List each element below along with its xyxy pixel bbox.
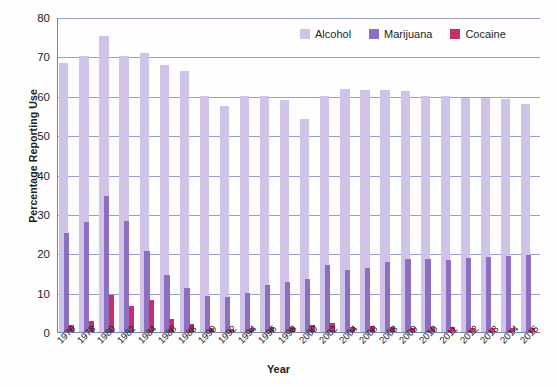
y-tick-20: 20 <box>16 248 50 260</box>
bar-marijuana-2004 <box>345 270 350 332</box>
x-tick-1980: 1980 <box>97 336 117 382</box>
y-axis-title: Percentage Reporting Use <box>27 89 39 223</box>
x-tick-1998: 1998 <box>278 336 298 382</box>
bar-marijuana-2012 <box>466 258 471 332</box>
legend-label: Cocaine <box>465 28 505 40</box>
chart-legend: AlcoholMarijuanaCocaine <box>300 28 515 40</box>
bar-group-2012 <box>460 18 480 332</box>
bar-marijuana-2015 <box>526 255 531 332</box>
bar-group-1978 <box>78 18 98 332</box>
bar-group-1996 <box>259 18 279 332</box>
bar-group-1994 <box>239 18 259 332</box>
x-tick-2011: 2011 <box>439 336 459 382</box>
bar-group-2013 <box>480 18 500 332</box>
bar-group-2004 <box>339 18 359 332</box>
bar-group-1984 <box>138 18 158 332</box>
bar-marijuana-2009 <box>405 259 410 332</box>
bar-marijuana-2002 <box>325 265 330 332</box>
bar-marijuana-2014 <box>506 256 511 332</box>
x-tick-1976: 1976 <box>57 336 77 382</box>
x-tick-2013: 2013 <box>480 336 500 382</box>
bar-group-2008 <box>379 18 399 332</box>
y-tick-10: 10 <box>16 288 50 300</box>
bar-group-1986 <box>158 18 178 332</box>
bar-group-1990 <box>199 18 219 332</box>
bar-marijuana-2006 <box>365 268 370 332</box>
bar-marijuana-2013 <box>486 257 491 332</box>
x-tick-2014: 2014 <box>500 336 520 382</box>
x-tick-1992: 1992 <box>218 336 238 382</box>
bar-group-1982 <box>118 18 138 332</box>
legend-label: Alcohol <box>315 28 351 40</box>
bar-marijuana-1976 <box>64 233 69 332</box>
x-tick-1984: 1984 <box>138 336 158 382</box>
legend-swatch-cocaine <box>450 29 460 39</box>
bar-marijuana-2011 <box>446 260 451 332</box>
bar-columns <box>58 18 540 332</box>
x-tick-2012: 2012 <box>460 336 480 382</box>
legend-item-cocaine: Cocaine <box>450 28 505 40</box>
y-tick-70: 70 <box>16 51 50 63</box>
x-tick-1978: 1978 <box>77 336 97 382</box>
bar-group-1980 <box>98 18 118 332</box>
plot-area <box>57 18 540 333</box>
bar-group-2010 <box>419 18 439 332</box>
bar-group-2000 <box>299 18 319 332</box>
x-tick-2008: 2008 <box>379 336 399 382</box>
x-tick-2002: 2002 <box>319 336 339 382</box>
legend-label: Marijuana <box>384 28 432 40</box>
bar-group-2002 <box>319 18 339 332</box>
bar-group-1992 <box>219 18 239 332</box>
x-tick-1994: 1994 <box>238 336 258 382</box>
x-axis-title: Year <box>0 363 557 375</box>
x-tick-1988: 1988 <box>178 336 198 382</box>
x-tick-2004: 2004 <box>339 336 359 382</box>
bar-group-1988 <box>178 18 198 332</box>
x-tick-1982: 1982 <box>117 336 137 382</box>
legend-swatch-marijuana <box>369 29 379 39</box>
legend-item-alcohol: Alcohol <box>300 28 351 40</box>
bar-marijuana-2008 <box>385 262 390 332</box>
x-tick-1986: 1986 <box>158 336 178 382</box>
bar-marijuana-2010 <box>425 259 430 332</box>
bar-group-2011 <box>439 18 459 332</box>
bar-chart: 01020304050607080 Percentage Reporting U… <box>0 0 557 387</box>
x-tick-1996: 1996 <box>258 336 278 382</box>
x-tick-2010: 2010 <box>419 336 439 382</box>
x-axis-tick-labels: 1976197819801982198419861988199019921994… <box>57 336 540 382</box>
x-tick-2015: 2015 <box>520 336 540 382</box>
bar-group-2014 <box>500 18 520 332</box>
x-tick-2000: 2000 <box>299 336 319 382</box>
bar-marijuana-1978 <box>84 222 89 332</box>
bar-group-1998 <box>279 18 299 332</box>
bar-group-2015 <box>520 18 540 332</box>
x-tick-2009: 2009 <box>399 336 419 382</box>
bar-group-2009 <box>399 18 419 332</box>
y-tick-80: 80 <box>16 12 50 24</box>
legend-swatch-alcohol <box>300 29 310 39</box>
x-tick-2006: 2006 <box>359 336 379 382</box>
x-tick-1990: 1990 <box>198 336 218 382</box>
y-tick-0: 0 <box>16 327 50 339</box>
bar-group-2006 <box>359 18 379 332</box>
legend-item-marijuana: Marijuana <box>369 28 432 40</box>
bar-group-1976 <box>58 18 78 332</box>
